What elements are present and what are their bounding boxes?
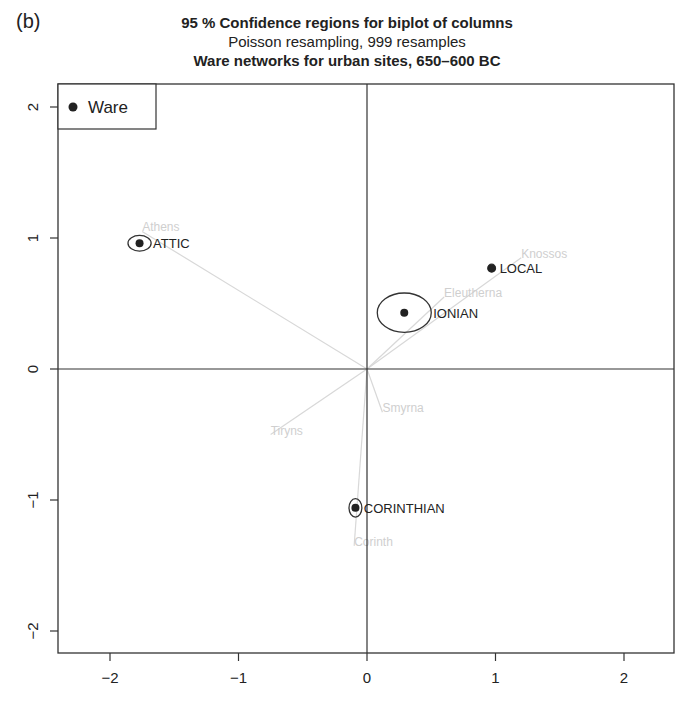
site-label: Knossos	[521, 247, 567, 261]
ware-label: ATTIC	[153, 236, 190, 251]
legend-label: Ware	[88, 98, 128, 117]
ware-point	[400, 309, 408, 317]
x-tick-label: −1	[230, 669, 247, 686]
site-label: Athens	[142, 220, 179, 234]
legend-marker	[69, 103, 78, 112]
ware-point	[136, 239, 144, 247]
x-tick-label: 2	[620, 669, 628, 686]
site-label: Corinth	[354, 535, 393, 549]
x-tick-label: 1	[491, 669, 499, 686]
site-label: Eleutherna	[444, 286, 502, 300]
x-tick-label: 0	[363, 669, 371, 686]
y-tick-label: 0	[24, 365, 41, 373]
y-tick-label: 2	[24, 103, 41, 111]
site-arrow	[367, 369, 382, 412]
ware-label: IONIAN	[433, 306, 478, 321]
y-tick-label: 1	[24, 234, 41, 242]
y-tick-label: −2	[24, 622, 41, 639]
y-tick-label: −1	[24, 491, 41, 508]
site-arrow	[142, 231, 367, 369]
ware-point	[351, 504, 359, 512]
site-label: Smyrna	[382, 401, 424, 415]
ware-point	[488, 264, 496, 272]
ware-label: LOCAL	[500, 261, 543, 276]
site-arrow	[354, 369, 367, 546]
biplot-chart: AthensKnossosEleuthernaTirynsSmyrnaCorin…	[0, 0, 694, 707]
ware-label: CORINTHIAN	[364, 501, 445, 516]
x-tick-label: −2	[101, 669, 118, 686]
site-label: Tiryns	[271, 424, 303, 438]
